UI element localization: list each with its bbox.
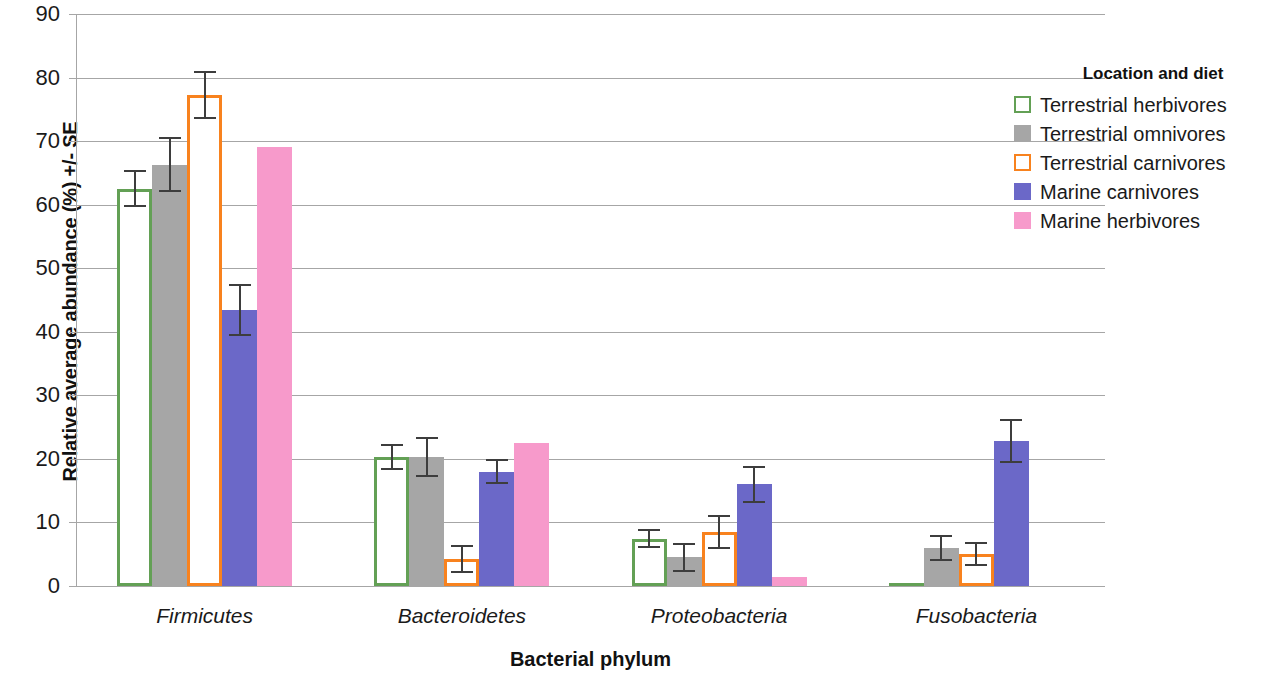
legend-item-terrestrial-omnivores[interactable]: Terrestrial omnivores <box>1014 119 1276 148</box>
x-axis-title: Bacterial phylum <box>76 648 1105 671</box>
error-bar-cap-top <box>930 535 952 537</box>
bar[interactable] <box>187 95 222 586</box>
error-bar-cap-bottom <box>194 117 216 119</box>
bar[interactable] <box>152 165 187 586</box>
bar-group-bars <box>117 14 292 586</box>
error-bar-cap-bottom <box>124 205 146 207</box>
y-axis-tick-label: 80 <box>8 67 60 89</box>
error-bar-cap-bottom <box>159 190 181 192</box>
bar-slot <box>374 14 409 586</box>
y-axis-tick-mark <box>69 395 76 396</box>
bar-slot <box>117 14 152 586</box>
error-bar-cap-bottom <box>381 468 403 470</box>
bar[interactable] <box>117 189 152 586</box>
y-axis-tick-label: 10 <box>8 511 60 533</box>
legend-swatch-icon <box>1014 154 1031 171</box>
y-axis-tick-mark <box>69 586 76 587</box>
y-axis-tick-label: 30 <box>8 384 60 406</box>
y-axis-tick-mark <box>69 141 76 142</box>
error-bar-cap-bottom <box>743 501 765 503</box>
bar[interactable] <box>772 577 807 586</box>
bar-group-bars <box>632 14 807 586</box>
error-bar-cap-top <box>708 515 730 517</box>
bar-group <box>117 14 292 586</box>
bar-slot <box>632 14 667 586</box>
legend-swatch-icon <box>1014 212 1031 229</box>
legend-item-marine-herbivores[interactable]: Marine herbivores <box>1014 206 1276 235</box>
y-axis-tick-mark <box>69 268 76 269</box>
legend-item-label: Terrestrial herbivores <box>1040 95 1227 115</box>
y-axis-tick-mark <box>69 522 76 523</box>
error-bar-stem <box>239 284 241 336</box>
y-axis-tick-mark <box>69 205 76 206</box>
error-bar-cap-bottom <box>416 475 438 477</box>
bar-slot <box>222 14 257 586</box>
bar-group-bars <box>374 14 549 586</box>
bar-group <box>374 14 549 586</box>
error-bar-cap-top <box>451 545 473 547</box>
bar-slot <box>479 14 514 586</box>
bar[interactable] <box>514 443 549 586</box>
error-bar-cap-bottom <box>486 482 508 484</box>
legend-item-label: Terrestrial omnivores <box>1040 124 1226 144</box>
legend-item-terrestrial-carnivores[interactable]: Terrestrial carnivores <box>1014 148 1276 177</box>
gridline <box>76 586 1105 587</box>
y-axis-tick-label: 90 <box>8 3 60 25</box>
error-bar-cap-top <box>381 444 403 446</box>
y-axis-tick-label: 70 <box>8 130 60 152</box>
error-bar-cap-top <box>159 137 181 139</box>
error-bar-cap-bottom <box>673 570 695 572</box>
y-axis-tick-mark <box>69 459 76 460</box>
error-bar-cap-bottom <box>930 559 952 561</box>
legend-swatch-icon <box>1014 183 1031 200</box>
legend-item-label: Marine carnivores <box>1040 182 1199 202</box>
chart-legend: Location and diet Terrestrial herbivores… <box>1014 64 1276 235</box>
bar[interactable] <box>889 583 924 586</box>
error-bar-stem <box>940 535 942 560</box>
y-axis-tick-label: 40 <box>8 321 60 343</box>
error-bar-cap-top <box>194 71 216 73</box>
y-axis-tick-mark <box>69 14 76 15</box>
bar-slot <box>889 14 924 586</box>
error-bar-cap-top <box>124 170 146 172</box>
bar-slot <box>152 14 187 586</box>
y-axis-tick-label: 60 <box>8 194 60 216</box>
x-axis-tick-label: Fusobacteria <box>848 604 1105 628</box>
error-bar-stem <box>461 545 463 573</box>
error-bar-stem <box>134 170 136 207</box>
bar[interactable] <box>374 457 409 586</box>
y-axis-line <box>76 14 77 586</box>
error-bar-stem <box>683 543 685 572</box>
y-axis-tick-label: 50 <box>8 257 60 279</box>
bar-slot <box>409 14 444 586</box>
error-bar-stem <box>496 459 498 484</box>
bar[interactable] <box>257 147 292 586</box>
y-axis-tick-mark <box>69 78 76 79</box>
bar[interactable] <box>222 310 257 586</box>
error-bar-cap-bottom <box>229 334 251 336</box>
error-bar-cap-top <box>229 284 251 286</box>
error-bar-cap-top <box>1000 419 1022 421</box>
error-bar-cap-bottom <box>965 564 987 566</box>
legend-item-terrestrial-herbivores[interactable]: Terrestrial herbivores <box>1014 90 1276 119</box>
error-bar-stem <box>753 466 755 503</box>
bar-slot <box>514 14 549 586</box>
error-bar-cap-top <box>486 459 508 461</box>
bar-slot <box>187 14 222 586</box>
x-axis-tick-label: Bacteroidetes <box>333 604 590 628</box>
error-bar-stem <box>975 542 977 566</box>
bar-slot <box>257 14 292 586</box>
bar-slot <box>667 14 702 586</box>
error-bar-cap-top <box>638 529 660 531</box>
error-bar-cap-bottom <box>638 546 660 548</box>
error-bar-stem <box>1010 419 1012 463</box>
error-bar-cap-top <box>743 466 765 468</box>
legend-item-marine-carnivores[interactable]: Marine carnivores <box>1014 177 1276 206</box>
bar-chart: Relative average abundance (%) +/- SE 01… <box>0 0 1280 682</box>
y-axis-tick-label: 20 <box>8 448 60 470</box>
error-bar-stem <box>391 444 393 471</box>
legend-item-label: Terrestrial carnivores <box>1040 153 1226 173</box>
error-bar-cap-bottom <box>708 547 730 549</box>
bar[interactable] <box>479 472 514 586</box>
legend-swatch-icon <box>1014 96 1031 113</box>
